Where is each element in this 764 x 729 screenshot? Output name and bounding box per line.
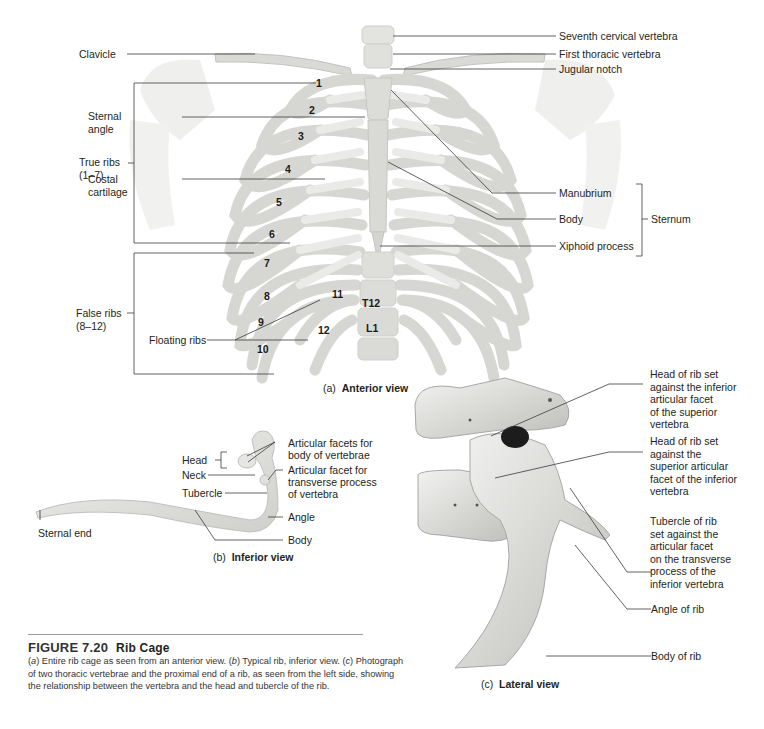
label-line: set against the (650, 528, 731, 541)
label-false-ribs-line1: False ribs (76, 307, 122, 320)
label-false-ribs-line2: (8–12) (76, 320, 106, 333)
label-costal-cartilage-line1: Costal (88, 173, 118, 186)
caption-inferior-title: Inferior view (232, 551, 294, 563)
rib-number-11: 11 (332, 288, 343, 300)
caption-lateral-prefix: (c) (481, 678, 493, 690)
rib-number-12: 12 (318, 324, 330, 336)
rib-number-2: 2 (309, 104, 315, 116)
label-body-of-rib: Body of rib (651, 650, 701, 663)
rib-number-9: 9 (258, 316, 264, 328)
label-line: against the (650, 448, 737, 461)
label-articular-facets-line1: Articular facets for (288, 437, 373, 450)
label-angle: Angle (288, 511, 315, 524)
caption-text: ) Entire rib cage as seen from an anteri… (36, 656, 232, 666)
figure-number: FIGURE 7.20 (28, 640, 108, 655)
label-tubercle: Tubercle (182, 487, 222, 500)
label-line: articular facet (650, 540, 731, 553)
caption-text: ) Typical rib, inferior view. ( (237, 656, 346, 666)
label-sternal-end: Sternal end (38, 527, 92, 540)
label-articular-facet-line3: of vertebra (288, 488, 338, 501)
label-sternal-angle-line2: angle (88, 123, 114, 136)
label-line: of the superior (650, 406, 736, 419)
caption-lateral-title: Lateral view (499, 678, 559, 690)
label-tubercle-of-rib: Tubercle of rib set against the articula… (650, 515, 731, 590)
label-sternum: Sternum (651, 213, 691, 226)
label-angle-of-rib: Angle of rib (651, 603, 704, 616)
label-floating-ribs: Floating ribs (149, 334, 206, 347)
label-line: Head of rib set (650, 368, 736, 381)
rib-number-7: 7 (264, 257, 270, 269)
caption-divider (28, 634, 363, 635)
label-clavicle: Clavicle (79, 48, 116, 61)
label-line: against the inferior (650, 381, 736, 394)
caption-inferior-prefix: (b) (213, 551, 226, 563)
caption-lateral-view: (c) Lateral view (481, 678, 559, 690)
label-articular-facet-line1: Articular facet for (288, 464, 367, 477)
label-line: superior articular (650, 460, 737, 473)
label-line: vertebra (650, 418, 736, 431)
label-line: facet of the inferior (650, 473, 737, 486)
label-line: vertebra (650, 485, 737, 498)
label-sternal-angle-line1: Sternal (88, 110, 121, 123)
rib-number-3: 3 (298, 130, 304, 142)
rib-number-4: 4 (285, 163, 291, 175)
label-true-ribs-line1: True ribs (79, 156, 120, 169)
label-first-thoracic-vertebra: First thoracic vertebra (559, 48, 661, 61)
inferior-rib-illustration (36, 431, 278, 532)
label-line: Head of rib set (650, 435, 737, 448)
caption-anterior-title: Anterior view (342, 382, 409, 394)
label-neck: Neck (182, 469, 206, 482)
label-xiphoid-process: Xiphoid process (559, 240, 634, 253)
label-line: Tubercle of rib (650, 515, 731, 528)
rib-number-6: 6 (269, 228, 275, 240)
label-line: articular facet (650, 393, 736, 406)
caption-anterior-view: (a) Anterior view (323, 382, 408, 394)
caption-inferior-view: (b) Inferior view (213, 551, 294, 563)
label-head-superior-facet: Head of rib set against the superior art… (650, 435, 737, 498)
caption-anterior-prefix: (a) (323, 382, 336, 394)
label-sternum-body: Body (559, 213, 583, 226)
rib-number-8: 8 (264, 290, 270, 302)
label-line: on the transverse (650, 553, 731, 566)
vertebra-label-l1: L1 (366, 322, 378, 334)
label-jugular-notch: Jugular notch (559, 63, 622, 76)
label-line: inferior vertebra (650, 578, 731, 591)
label-body: Body (288, 534, 312, 547)
label-seventh-cervical-vertebra: Seventh cervical vertebra (559, 30, 677, 43)
label-articular-facet-line2: transverse process (288, 476, 377, 489)
lateral-vertebrae-photo (415, 378, 610, 668)
figure-name: Rib Cage (116, 641, 170, 655)
label-costal-cartilage-line2: cartilage (88, 186, 128, 199)
label-articular-facets-line2: body of vertebrae (288, 449, 370, 462)
vertebra-label-t12: T12 (362, 297, 380, 309)
rib-number-10: 10 (257, 343, 269, 355)
rib-number-5: 5 (276, 196, 282, 208)
label-manubrium: Manubrium (559, 187, 612, 200)
label-head: Head (182, 454, 207, 467)
figure-caption: (a) Entire rib cage as seen from an ante… (28, 655, 408, 693)
label-line: process of the (650, 565, 731, 578)
rib-number-1: 1 (316, 77, 322, 89)
figure-title: FIGURE 7.20 Rib Cage (28, 640, 170, 655)
label-head-inferior-facet: Head of rib set against the inferior art… (650, 368, 736, 431)
